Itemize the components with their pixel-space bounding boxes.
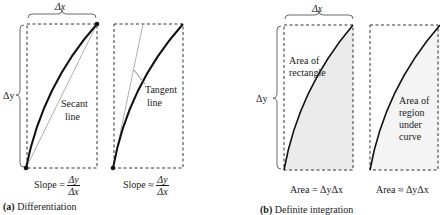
caption-letter: (a) xyxy=(3,201,15,212)
area-region-label-line2: region xyxy=(399,107,425,118)
integration-rectangle-panel xyxy=(273,11,353,170)
fraction-denominator: Δx xyxy=(67,186,79,197)
delta-x-label: Δx xyxy=(55,1,65,12)
area-rectangle-label-line2: rectangle xyxy=(289,67,326,78)
slope-prefix: Slope ≈ xyxy=(123,179,154,190)
secant-line xyxy=(26,24,97,168)
delta-y-brace xyxy=(16,25,24,167)
caption-b: (b) Definite integration xyxy=(260,204,353,215)
delta-y-label: Δy xyxy=(256,93,267,104)
slope-fraction: Δy Δx xyxy=(67,174,79,197)
fraction-numerator: Δy xyxy=(67,174,79,186)
area-region-label-line3: under xyxy=(399,119,422,130)
fraction-numerator: Δy xyxy=(156,174,168,186)
region-area-formula: Area ≈ ΔyΔx xyxy=(376,184,429,195)
area-region-label-line4: curve xyxy=(399,131,421,142)
differentiation-secant-panel xyxy=(16,10,99,170)
start-point xyxy=(111,166,116,171)
start-point xyxy=(24,166,29,171)
slope-prefix: Slope = xyxy=(34,179,65,190)
delta-y-label: Δy xyxy=(3,90,14,101)
secant-slope-formula: Slope = Δy Δx xyxy=(34,174,80,197)
tangent-label-line2: line xyxy=(147,97,162,108)
delta-x-label: Δx xyxy=(312,3,322,14)
tangent-label-line1: Tangent xyxy=(145,84,177,95)
caption-text: Definite integration xyxy=(275,204,354,215)
delta-y-brace xyxy=(273,26,281,169)
caption-a: (a) Differentiation xyxy=(3,201,76,212)
secant-label-line1: Secant xyxy=(61,98,88,109)
rectangle-area-formula: Area = ΔyΔx xyxy=(290,184,343,195)
caption-letter: (b) xyxy=(260,204,272,215)
curve xyxy=(113,24,183,168)
caption-text: Differentiation xyxy=(17,201,76,212)
fraction-denominator: Δx xyxy=(156,186,168,197)
secant-label-line2: line xyxy=(65,111,80,122)
dashed-box xyxy=(114,24,183,168)
shaded-area xyxy=(284,25,353,170)
slope-fraction: Δy Δx xyxy=(156,174,168,197)
tangent-leader-line xyxy=(134,70,145,84)
area-region-label-line1: Area of xyxy=(399,95,429,106)
area-rectangle-label-line1: Area of xyxy=(289,55,319,66)
tangent-slope-formula: Slope ≈ Δy Δx xyxy=(123,174,169,197)
end-point xyxy=(95,22,100,27)
